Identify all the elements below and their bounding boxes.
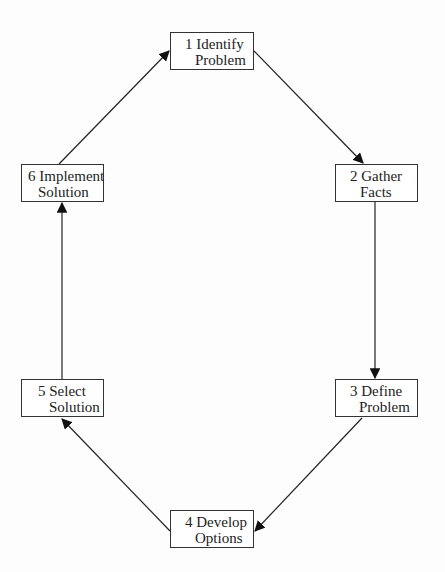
node-label: Problem [359, 399, 410, 415]
arrow-3-to-4 [255, 418, 362, 531]
node-label: Problem [195, 52, 246, 68]
node-5-select-solution: 5 Select Solution [21, 379, 104, 417]
node-6-implement-solution: 6 Implement Solution [21, 164, 104, 202]
node-label: Solution [49, 399, 100, 415]
node-label: Solution [38, 184, 89, 200]
node-label: 1 Identify [185, 36, 244, 52]
node-label: 5 Select [38, 383, 86, 399]
node-label: 4 Develop [185, 514, 247, 530]
arrow-1-to-2 [254, 51, 363, 163]
node-label: 6 Implement [28, 168, 104, 184]
node-label: Options [195, 530, 243, 546]
node-3-define-problem: 3 Define Problem [335, 379, 418, 417]
arrow-4-to-5 [62, 419, 170, 531]
node-label: 2 Gather [350, 168, 402, 184]
node-2-gather-facts: 2 Gather Facts [335, 164, 418, 202]
node-1-identify-problem: 1 Identify Problem [170, 32, 254, 70]
arrows-layer [0, 0, 445, 572]
node-4-develop-options: 4 Develop Options [170, 510, 254, 548]
node-label: 3 Define [350, 383, 402, 399]
arrow-6-to-1 [59, 51, 169, 164]
node-label: Facts [360, 184, 392, 200]
